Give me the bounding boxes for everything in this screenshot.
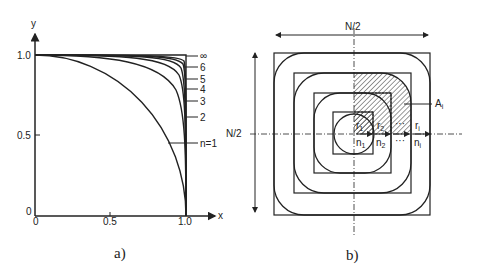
y-tick-label-05: 0.5 xyxy=(17,130,31,141)
n2-label: n2 xyxy=(376,137,386,149)
caption-a: a) xyxy=(114,245,126,262)
caption-b: b) xyxy=(346,247,359,264)
curve-n6 xyxy=(35,55,186,216)
label-n1: n=1 xyxy=(200,138,217,149)
x-tick-label-05: 0.5 xyxy=(103,216,117,227)
curve-inf xyxy=(35,55,186,216)
x-tick-label-1: 1.0 xyxy=(178,216,192,227)
rdots-label: ··· xyxy=(395,118,405,129)
ri-label: ri xyxy=(415,120,420,132)
label-4: 4 xyxy=(200,84,206,95)
area-label: Ai xyxy=(435,98,444,110)
panel-b-diagram: r1 r2 ··· ri n1 n2 ··· ni Ai N/2 N/2 b) xyxy=(226,21,462,264)
panel-a-chart: y x 1.0 0.5 0 0 0.5 1.0 xyxy=(17,18,223,262)
curve-n2 xyxy=(35,55,186,216)
curve-n4 xyxy=(35,55,186,216)
label-2: 2 xyxy=(200,112,206,123)
dim-vertical-label: N/2 xyxy=(226,128,242,139)
ndots-label: ··· xyxy=(395,135,405,146)
label-6: 6 xyxy=(200,62,206,73)
curve-n5 xyxy=(35,55,186,216)
x-axis-label: x xyxy=(218,210,223,221)
label-inf: ∞ xyxy=(200,50,207,61)
figure: y x 1.0 0.5 0 0 0.5 1.0 xyxy=(0,0,483,278)
n1-label: n1 xyxy=(356,137,366,149)
label-3: 3 xyxy=(200,96,206,107)
y-tick-label-1: 1.0 xyxy=(17,50,31,61)
curve-n3 xyxy=(35,55,186,216)
dim-horizontal-label: N/2 xyxy=(345,21,361,32)
curve-n1 xyxy=(35,55,186,216)
x-tick-label-0: 0 xyxy=(33,216,39,227)
ni-label: ni xyxy=(414,137,422,149)
curves xyxy=(35,55,186,216)
y-axis-label: y xyxy=(31,18,36,29)
y-tick-label-0: 0 xyxy=(26,206,32,217)
